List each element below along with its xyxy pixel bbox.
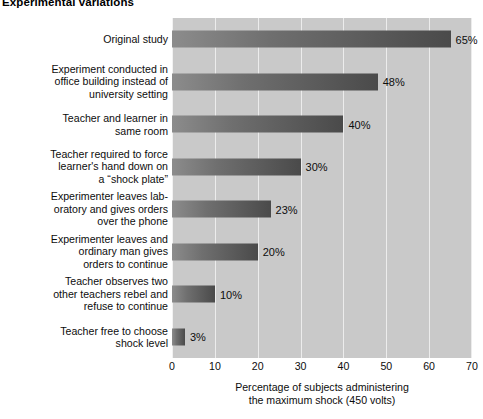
bar-group: 30% [172,158,328,175]
bar-category-label: Experimenter leaves lab- oratory and giv… [0,191,168,228]
x-tick-label: 50 [380,360,392,372]
bar-value-label: 65% [456,33,478,45]
bar [172,201,271,218]
bar-row: Teacher free to choose shock level 3% [0,316,483,359]
bar-group: 65% [172,31,478,48]
bar-category-label: Experimenter leaves and ordinary man giv… [0,233,168,270]
x-tick-label: 30 [295,360,307,372]
bar-row: Original study 65% [0,18,483,61]
x-tick-label: 20 [252,360,264,372]
bar-group: 20% [172,243,285,260]
bar-row: Teacher observes two other teachers rebe… [0,273,483,316]
bar [172,73,378,90]
bar-value-label: 10% [220,288,242,300]
bar-chart: Experimental variations Original study 6… [0,0,483,419]
bar-category-label: Teacher required to force learner's hand… [0,148,168,185]
x-tick-label: 10 [209,360,221,372]
x-tick-label: 70 [466,360,478,372]
bar-category-label: Teacher observes two other teachers rebe… [0,276,168,313]
bar-category-label: Teacher and learner in same room [0,112,168,137]
bar-value-label: 48% [383,76,405,88]
bar-category-label: Experiment conducted in office building … [0,63,168,100]
bar-group: 10% [172,286,242,303]
bar-group: 23% [172,201,298,218]
bar [172,158,301,175]
bar-group: 40% [172,116,370,133]
bar [172,243,258,260]
bar-category-label: Original study [0,33,168,45]
bar-row: Teacher required to force learner's hand… [0,146,483,189]
x-tick-label: 0 [169,360,175,372]
bar-row: Experiment conducted in office building … [0,61,483,104]
bar [172,31,451,48]
bar-row: Teacher and learner in same room 40% [0,103,483,146]
bar-group: 3% [172,328,206,345]
chart-title: Experimental variations [2,0,134,8]
bar-group: 48% [172,73,405,90]
bar-value-label: 23% [276,203,298,215]
bar [172,116,343,133]
bar [172,328,185,345]
bar [172,286,215,303]
x-axis-title: Percentage of subjects administering the… [172,381,472,406]
x-tick-label: 40 [337,360,349,372]
bar-value-label: 30% [306,161,328,173]
bar-row: Experimenter leaves lab- oratory and giv… [0,188,483,231]
bar-value-label: 20% [263,246,285,258]
bar-value-label: 40% [348,118,370,130]
bar-value-label: 3% [190,331,206,343]
bar-row: Experimenter leaves and ordinary man giv… [0,231,483,274]
bar-category-label: Teacher free to choose shock level [0,324,168,349]
x-tick-label: 60 [423,360,435,372]
